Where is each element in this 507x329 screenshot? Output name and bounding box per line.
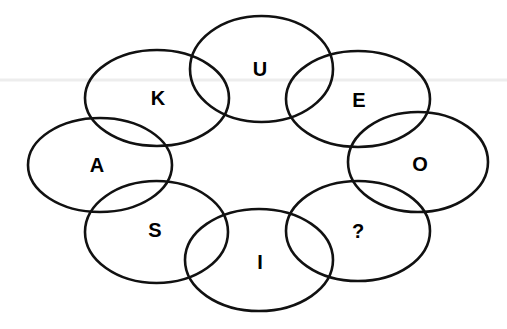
- ellipse-ring-svg: UKEAOS?I: [0, 0, 507, 329]
- label-k: K: [151, 87, 166, 109]
- label-question: ?: [352, 220, 364, 242]
- label-e: E: [352, 89, 365, 111]
- label-u: U: [253, 58, 267, 80]
- puzzle-diagram: UKEAOS?I: [0, 0, 507, 329]
- label-s: S: [148, 219, 161, 241]
- label-group: UKEAOS?I: [90, 58, 428, 273]
- label-o: O: [412, 153, 428, 175]
- label-i: I: [257, 251, 263, 273]
- label-a: A: [90, 154, 104, 176]
